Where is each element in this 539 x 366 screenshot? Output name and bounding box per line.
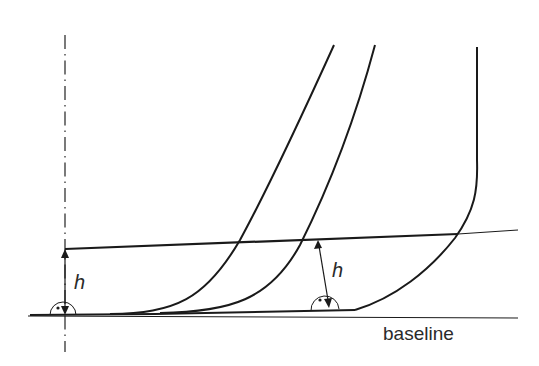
inclined-line-thick — [65, 234, 458, 249]
inclined-line-thin — [458, 230, 518, 234]
baseline-label: baseline — [383, 323, 454, 344]
baseline-line — [28, 316, 518, 318]
height-label-right: h — [332, 259, 343, 281]
diagram-svg: h h baseline — [0, 0, 539, 366]
hull-curve-3 — [355, 47, 477, 310]
diagram-canvas: h h baseline — [0, 0, 539, 366]
hull-curve-1 — [110, 45, 334, 314]
height-dimension-left — [50, 249, 76, 315]
height-label-left: h — [74, 271, 85, 293]
